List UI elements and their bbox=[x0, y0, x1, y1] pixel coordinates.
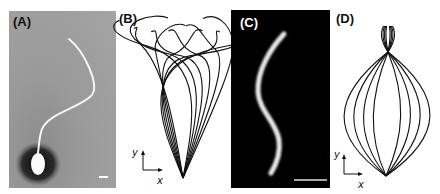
panel-c-fluorescence: (C) bbox=[231, 10, 330, 188]
panel-a-micrograph: (A) bbox=[9, 11, 116, 188]
panel-b-waveform-traces: y x bbox=[110, 0, 230, 194]
waveform-trace bbox=[354, 52, 388, 176]
y-axis-label: y bbox=[333, 149, 341, 160]
sperm-flagellum bbox=[38, 39, 94, 153]
x-axis-label: x bbox=[357, 179, 364, 190]
x-axis-label: x bbox=[156, 175, 163, 186]
axes-indicator-d: y x bbox=[333, 149, 364, 190]
sperm-head bbox=[31, 153, 45, 175]
x-arrowhead-icon bbox=[158, 168, 163, 172]
waveform-trace bbox=[114, 20, 192, 178]
waveform-traces-d bbox=[344, 26, 430, 176]
waveform-trace bbox=[386, 52, 410, 176]
waveform-trace bbox=[155, 24, 185, 178]
waveform-trace bbox=[373, 52, 388, 176]
waveform-trace bbox=[386, 52, 420, 176]
flagellum-fluorescence-image bbox=[231, 10, 330, 188]
axes-indicator-b: y x bbox=[131, 147, 163, 186]
sperm-cell-image bbox=[9, 11, 116, 188]
y-arrowhead-icon bbox=[141, 150, 145, 155]
y-axis-label: y bbox=[131, 147, 139, 158]
y-arrowhead-icon bbox=[342, 154, 346, 159]
x-arrowhead-icon bbox=[358, 172, 363, 176]
flagellum bbox=[258, 34, 284, 173]
waveform-trace bbox=[386, 52, 430, 176]
panel-d-waveform-traces: y x bbox=[330, 0, 440, 194]
